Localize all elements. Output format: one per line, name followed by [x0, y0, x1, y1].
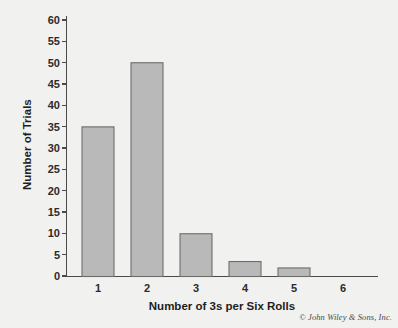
- bar-category-5: [278, 268, 310, 277]
- x-tick-label-5: 5: [291, 282, 297, 294]
- y-tick-label-40: 40: [48, 99, 60, 111]
- y-axis-title-group: Number of Trials: [21, 99, 33, 190]
- x-axis-tick-labels: 1 2 3 4 5 6: [95, 282, 346, 294]
- copyright-notice: © John Wiley & Sons, Inc.: [299, 312, 392, 322]
- y-tick-label-5: 5: [54, 249, 60, 261]
- y-axis-title: Number of Trials: [21, 99, 33, 190]
- y-tick-label-45: 45: [48, 78, 60, 90]
- bar-category-1: [82, 127, 114, 277]
- y-tick-label-25: 25: [48, 163, 60, 175]
- bar-category-2: [131, 63, 163, 277]
- y-tick-label-20: 20: [48, 185, 60, 197]
- x-tick-label-4: 4: [242, 282, 249, 294]
- y-axis-tick-labels: 0 5 10 15 20 25 30 35 40 45 50 55 60: [48, 14, 60, 282]
- x-axis-title: Number of 3s per Six Rolls: [149, 300, 295, 312]
- y-tick-label-10: 10: [48, 227, 60, 239]
- bar-chart-figure: Number of Trials 0 5 10 15 20 25 30 35 4…: [0, 0, 398, 328]
- x-tick-label-1: 1: [95, 282, 101, 294]
- y-tick-label-50: 50: [48, 57, 60, 69]
- bar-category-4: [229, 262, 261, 277]
- y-tick-label-15: 15: [48, 206, 60, 218]
- x-tick-label-3: 3: [193, 282, 199, 294]
- y-tick-label-55: 55: [48, 35, 60, 47]
- x-tick-label-2: 2: [144, 282, 150, 294]
- y-tick-label-60: 60: [48, 14, 60, 26]
- bar-series: [82, 63, 310, 277]
- chart-plot-area: Number of Trials 0 5 10 15 20 25 30 35 4…: [0, 0, 398, 328]
- bar-category-3: [180, 234, 212, 277]
- y-tick-label-0: 0: [54, 270, 60, 282]
- y-tick-label-30: 30: [48, 142, 60, 154]
- x-tick-label-6: 6: [340, 282, 346, 294]
- y-tick-label-35: 35: [48, 121, 60, 133]
